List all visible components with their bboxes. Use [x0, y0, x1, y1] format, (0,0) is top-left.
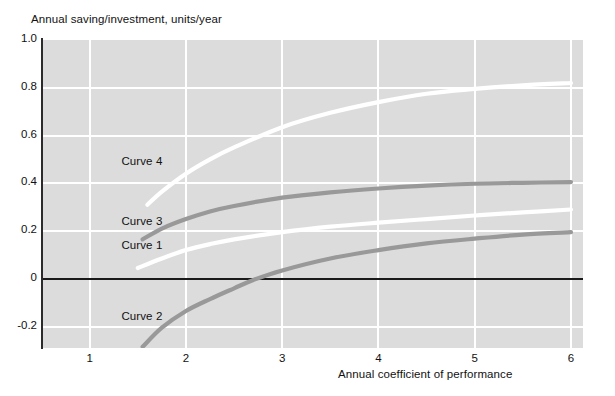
curve-line [143, 182, 571, 239]
curve-layer [0, 0, 615, 396]
curve-line [143, 232, 571, 347]
curve-label: Curve 1 [121, 239, 162, 251]
curve-label: Curve 2 [121, 310, 162, 322]
curve-label: Curve 4 [121, 155, 162, 167]
curve-line [147, 83, 571, 205]
x-axis-title: Annual coefficient of performance [338, 368, 512, 380]
chart-figure: Annual saving/investment, units/year 1.0… [0, 0, 615, 396]
curve-line [138, 210, 571, 268]
curve-label: Curve 3 [121, 215, 162, 227]
